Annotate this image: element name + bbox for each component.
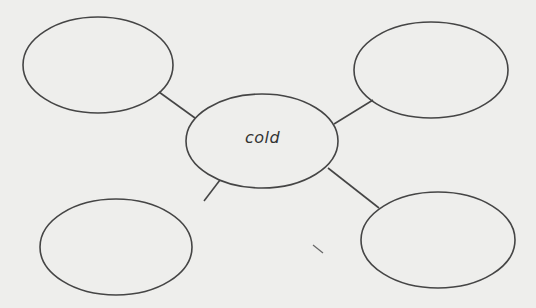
word-web-worksheet: cold <box>0 0 536 308</box>
center-word: cold <box>186 128 339 147</box>
connector-top-right <box>334 100 373 124</box>
bubble-bottom-left[interactable] <box>40 199 192 295</box>
connector-bottom-right <box>328 168 379 208</box>
connector-bottom-left <box>204 180 220 201</box>
stray-mark <box>313 245 323 253</box>
bubble-top-left[interactable] <box>23 17 173 113</box>
bubble-top-right[interactable] <box>354 22 508 118</box>
connector-top-left <box>159 92 195 118</box>
bubble-bottom-right[interactable] <box>361 192 515 288</box>
word-web-diagram <box>0 0 536 308</box>
